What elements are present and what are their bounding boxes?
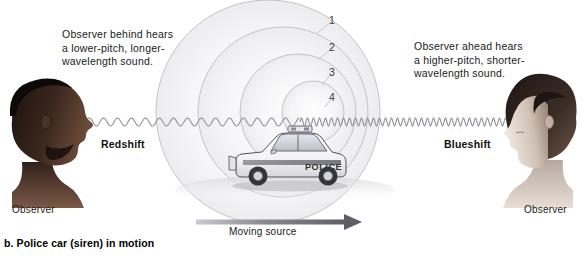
observer-right	[0, 0, 585, 260]
observer-right-portrait	[503, 74, 577, 208]
doppler-effect-figure: POLICE	[0, 0, 585, 260]
observer-right-ear	[545, 116, 554, 129]
